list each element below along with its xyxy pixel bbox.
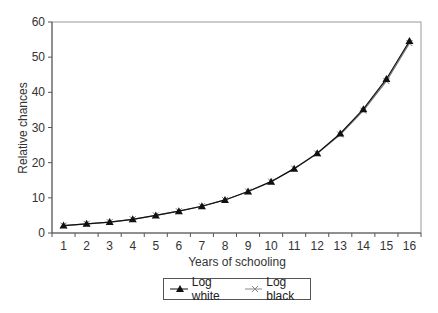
- x-tick-label: 12: [311, 239, 325, 253]
- x-tick-label: 9: [245, 239, 252, 253]
- triangle-marker-icon: [169, 284, 188, 294]
- y-axis: 0102030405060: [32, 15, 52, 240]
- legend-item-log-white: Log white: [169, 275, 236, 303]
- y-tick-label: 0: [38, 226, 45, 240]
- y-tick-label: 10: [32, 191, 46, 205]
- y-tick-label: 50: [32, 50, 46, 64]
- series-line: [64, 41, 410, 226]
- x-tick-label: 15: [380, 239, 394, 253]
- x-tick-label: 14: [357, 239, 371, 253]
- x-tick-label: 5: [152, 239, 159, 253]
- x-tick-label: 10: [264, 239, 278, 253]
- legend: Log white Log black: [163, 278, 311, 300]
- legend-label: Log white: [192, 275, 236, 303]
- y-tick-label: 20: [32, 156, 46, 170]
- x-tick-label: 6: [176, 239, 183, 253]
- line-chart: 0102030405060 12345678910111213141516 Re…: [0, 0, 438, 313]
- x-tick-label: 13: [334, 239, 348, 253]
- x-tick-label: 2: [83, 239, 90, 253]
- y-axis-title: Relative chances: [16, 82, 30, 173]
- x-tick-label: 7: [199, 239, 206, 253]
- x-tick-label: 1: [60, 239, 67, 253]
- x-axis-title: Years of schooling: [188, 255, 286, 269]
- legend-label: Log black: [266, 275, 310, 303]
- y-tick-label: 40: [32, 85, 46, 99]
- y-tick-label: 30: [32, 121, 46, 135]
- x-tick-label: 16: [403, 239, 417, 253]
- x-tick-label: 8: [222, 239, 229, 253]
- series-line: [64, 43, 410, 226]
- x-tick-label: 3: [106, 239, 113, 253]
- series-group: [60, 37, 414, 229]
- x-tick-label: 4: [129, 239, 136, 253]
- y-tick-label: 60: [32, 15, 46, 29]
- legend-item-log-black: Log black: [244, 275, 311, 303]
- x-axis: 12345678910111213141516: [52, 233, 421, 253]
- x-tick-label: 11: [288, 239, 301, 253]
- plot-area: [52, 22, 421, 233]
- x-marker-icon: [244, 284, 263, 294]
